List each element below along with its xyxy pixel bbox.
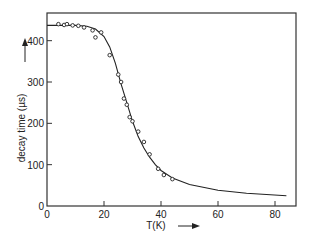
y-tick-label: 100 xyxy=(27,160,44,171)
data-point xyxy=(91,29,95,33)
data-point xyxy=(148,153,152,157)
data-point xyxy=(116,73,120,77)
data-point xyxy=(125,103,129,107)
data-point xyxy=(119,80,123,84)
y-tick-label: 400 xyxy=(27,36,44,47)
x-tick-label: 40 xyxy=(155,209,167,220)
y-tick-label: 200 xyxy=(27,118,44,129)
data-point xyxy=(57,22,61,26)
data-point xyxy=(122,97,126,101)
data-point xyxy=(128,115,132,119)
data-point xyxy=(142,140,146,144)
fit-curve xyxy=(47,25,286,195)
data-point xyxy=(99,31,103,35)
data-point xyxy=(65,22,69,26)
data-point xyxy=(131,119,135,123)
y-axis-label: decay time (µs) xyxy=(16,94,27,163)
data-point xyxy=(156,167,160,171)
x-tick-label: 80 xyxy=(269,209,281,220)
y-tick-label: 300 xyxy=(27,77,44,88)
data-point xyxy=(77,24,81,28)
data-point xyxy=(82,26,86,30)
data-point xyxy=(94,36,98,40)
data-point xyxy=(71,24,75,28)
x-tick-label: 60 xyxy=(212,209,224,220)
data-point xyxy=(108,53,112,57)
x-axis-ticks: 020406080 xyxy=(44,201,281,220)
x-axis-arrow-icon xyxy=(178,223,200,229)
x-tick-label: 20 xyxy=(98,209,110,220)
data-point xyxy=(136,130,140,134)
data-point xyxy=(162,173,166,177)
y-axis-ticks: 0100200300400 xyxy=(27,36,52,212)
data-points xyxy=(57,22,175,181)
decay-time-chart: 0100200300400 020406080 decay time (µs) … xyxy=(0,0,312,239)
x-tick-label: 0 xyxy=(44,209,50,220)
data-point xyxy=(171,177,175,181)
x-axis-label: T(K) xyxy=(146,220,165,231)
